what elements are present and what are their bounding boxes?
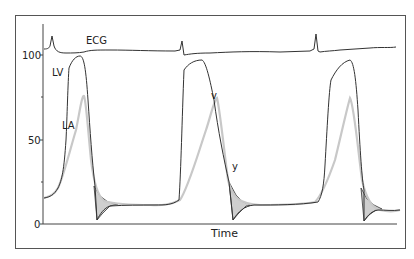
label-v: v bbox=[211, 90, 217, 101]
y-descent-shading bbox=[94, 182, 382, 221]
chart-frame bbox=[16, 16, 406, 249]
label-lv: LV bbox=[52, 67, 63, 78]
label-la: LA bbox=[62, 120, 75, 131]
label-ecg: ECG bbox=[86, 35, 107, 46]
x-axis-label: Time bbox=[210, 227, 238, 240]
pressure-chart: 100 50 0 ECG LV LA v y Time bbox=[0, 0, 414, 259]
label-y: y bbox=[232, 161, 238, 172]
y-tick-0: 0 bbox=[34, 219, 40, 230]
y-tick-50: 50 bbox=[28, 135, 41, 146]
y-tick-100: 100 bbox=[22, 50, 41, 61]
